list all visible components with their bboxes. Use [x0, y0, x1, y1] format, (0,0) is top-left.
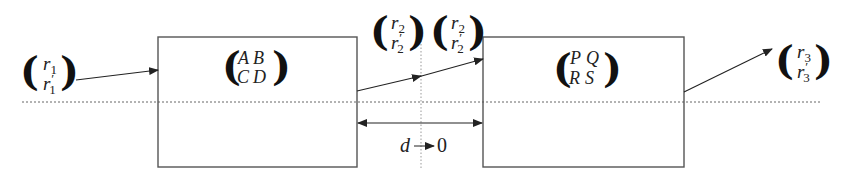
input-vector: ( r1 r′1 ) — [20, 47, 79, 97]
svg-text:0: 0 — [437, 134, 447, 156]
gap-ray-segment — [357, 76, 421, 91]
svg-text:): ) — [468, 7, 487, 54]
svg-text:AB: AB — [237, 48, 264, 68]
svg-text:RS: RS — [568, 68, 594, 88]
svg-text:): ) — [272, 42, 291, 89]
svg-text:d: d — [400, 134, 411, 156]
svg-text:(: ( — [370, 7, 389, 54]
input-ray-arrow — [76, 70, 158, 80]
svg-text:): ) — [603, 44, 622, 91]
output-ray-arrow — [684, 49, 772, 92]
diagram-canvas: ( r1 r′1 ) ( AB CD ) ( r2 r′2 ) ( r2 r′2… — [0, 0, 848, 177]
gap-ray-arrow — [418, 59, 483, 77]
svg-text:PQ: PQ — [569, 48, 599, 68]
matrix-pqrs: ( PQ RS ) — [553, 44, 622, 91]
svg-text:CD: CD — [237, 67, 266, 87]
matrix-abcd: ( AB CD ) — [222, 42, 291, 89]
svg-text:): ) — [814, 36, 833, 83]
svg-text:): ) — [408, 7, 427, 54]
gap-vector-left: ( r2 r′2 ) — [370, 7, 427, 56]
svg-text:): ) — [60, 47, 79, 94]
gap-distance-label: d 0 — [400, 134, 447, 156]
svg-text:(: ( — [775, 36, 794, 83]
output-vector: ( r3 r′3 ) — [775, 36, 833, 85]
svg-text:(: ( — [430, 7, 449, 54]
gap-vector-right: ( r2 r′2 ) — [430, 7, 487, 56]
svg-text:(: ( — [20, 47, 39, 94]
